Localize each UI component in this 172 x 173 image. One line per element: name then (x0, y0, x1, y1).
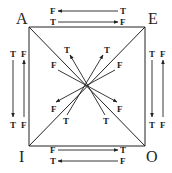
top-lower-left-label: T (50, 17, 56, 27)
left-inner-top-label: F (21, 49, 27, 59)
top-upper-right-label: T (120, 6, 126, 16)
bottom-upper-left-label: F (50, 145, 56, 155)
diag-ei-2-start-label: F (117, 60, 123, 70)
diag-ao-1-start-label: T (64, 45, 70, 55)
left-outer-bottom-label: T (10, 120, 16, 130)
bottom-arrows: F T T F (50, 145, 126, 166)
arrow-up-right-icon (67, 55, 103, 115)
diag-ao-1-end-label: T (103, 116, 109, 126)
right-outer-top-label: F (160, 49, 166, 59)
diag-ao-2-start-label: F (51, 60, 57, 70)
top-lower-right-label: F (120, 17, 126, 27)
corner-label-i: I (19, 148, 24, 165)
diag-ei-1-end-label: T (63, 116, 69, 126)
diag-ei-2-end-label: F (51, 104, 57, 114)
bottom-upper-right-label: T (120, 145, 126, 155)
left-arrows: T T F F (10, 49, 27, 130)
left-inner-bottom-label: F (21, 120, 27, 130)
right-inner-top-label: T (149, 49, 155, 59)
right-arrows: T T F F (149, 49, 166, 130)
square-frame (29, 27, 145, 146)
bottom-lower-right-label: F (120, 156, 126, 166)
corner-label-a: A (16, 10, 28, 27)
corner-label-e: E (148, 10, 158, 27)
arrow-down-left-icon (56, 70, 115, 102)
left-outer-top-label: T (10, 49, 16, 59)
arrow-down-right-icon (58, 70, 117, 102)
corner-label-o: O (146, 148, 158, 165)
bottom-lower-left-label: T (50, 156, 56, 166)
square-of-opposition-diagram: A E I O F T T F F T T F T T F F T T F F (0, 0, 172, 173)
diagonal-arrows: T T F F T T F F (51, 45, 123, 126)
right-outer-bottom-label: F (160, 120, 166, 130)
diag-ei-1-start-label: T (104, 45, 110, 55)
top-upper-left-label: F (50, 6, 56, 16)
diag-ao-2-end-label: F (117, 104, 123, 114)
top-arrows: F T T F (50, 6, 126, 27)
right-inner-bottom-label: T (149, 120, 155, 130)
